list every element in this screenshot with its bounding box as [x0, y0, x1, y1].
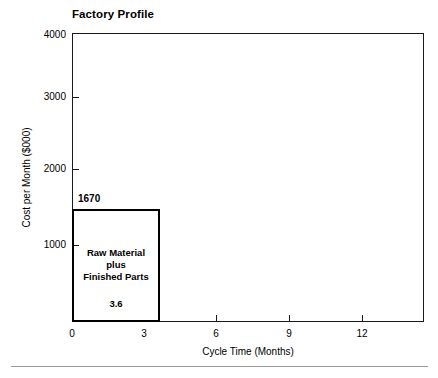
x-tick-label-9: 9	[269, 328, 309, 339]
x-axis-title: Cycle Time (Months)	[72, 346, 424, 357]
y-tick-mark-2000	[72, 169, 79, 170]
x-tick-mark-9	[289, 315, 290, 322]
x-tick-label-0: 0	[52, 328, 92, 339]
bar-value-label: 1670	[78, 193, 100, 204]
y-tick-label-4000: 4000	[6, 29, 66, 40]
chart-figure: Factory Profile 4000 3000 2000 1000 0 3 …	[0, 0, 438, 378]
x-tick-label-6: 6	[196, 328, 236, 339]
y-tick-mark-3000	[72, 97, 79, 98]
y-tick-label-3000: 3000	[6, 91, 66, 102]
bar-label-line-2: plus	[74, 259, 158, 271]
bar-width-dimension-arrow: 3.6	[74, 297, 158, 310]
x-tick-mark-6	[216, 315, 217, 322]
chart-title: Factory Profile	[72, 8, 154, 20]
bar-width-label: 3.6	[107, 298, 124, 309]
y-tick-label-2000: 2000	[6, 163, 66, 174]
bar-inner-label: Raw Material plus Finished Parts	[74, 247, 158, 283]
bar-label-line-3: Finished Parts	[74, 271, 158, 283]
x-tick-mark-12	[362, 315, 363, 322]
y-tick-label-1000: 1000	[6, 239, 66, 250]
y-axis-title: Cost per Month ($000)	[21, 98, 32, 258]
x-tick-label-12: 12	[342, 328, 382, 339]
x-tick-label-3: 3	[124, 328, 164, 339]
footer-divider	[11, 366, 428, 367]
bar-width-label-wrap: 3.6	[74, 297, 158, 310]
bar-label-line-1: Raw Material	[74, 247, 158, 259]
